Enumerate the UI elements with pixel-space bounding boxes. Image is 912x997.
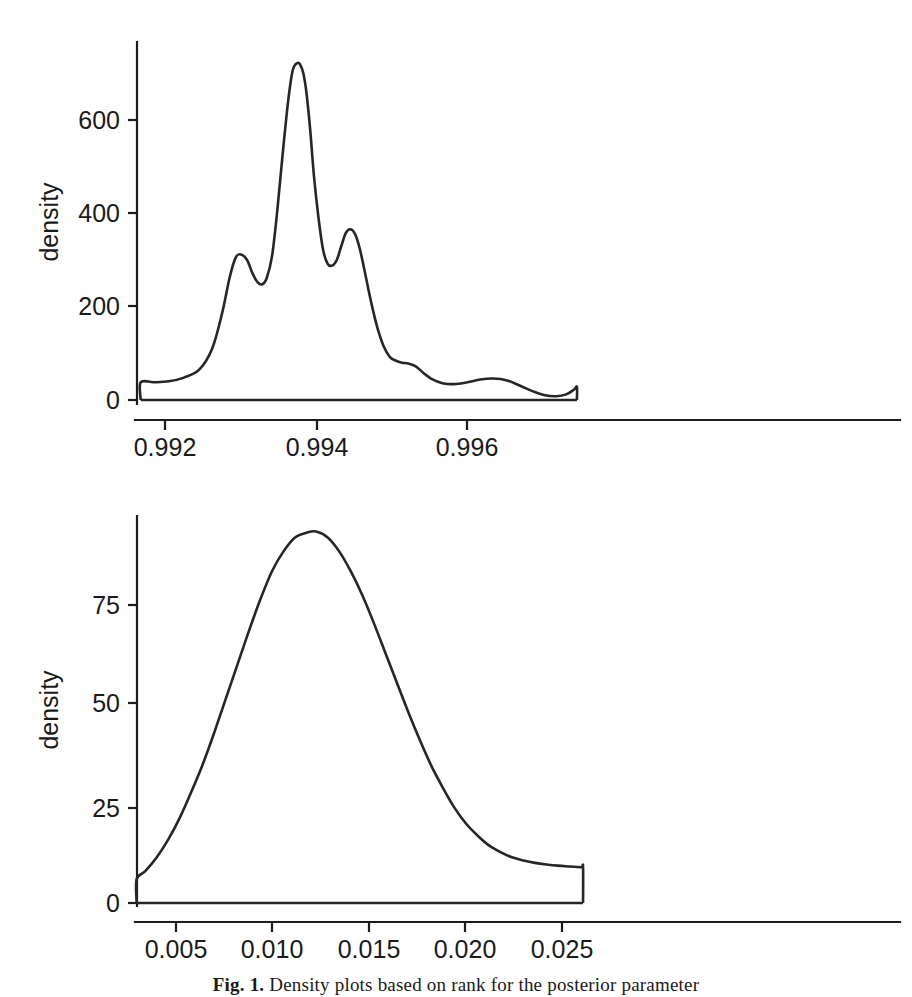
top-y-ticklabel-400: 400 (78, 199, 120, 227)
density-plot-bottom: 0 25 50 75 0.005 0.010 0.015 0.020 0.025… (0, 470, 912, 970)
density-plot-top: 0 200 400 600 0.992 0.994 0.996 density (0, 0, 912, 470)
top-x-ticks (165, 420, 467, 430)
figure-caption-text: Density plots based on rank for the post… (269, 974, 699, 995)
bottom-y-ticklabel-25: 25 (92, 794, 120, 822)
bottom-density-curve (136, 531, 583, 903)
bottom-x-ticks (176, 922, 562, 932)
top-y-axis-title: density (35, 182, 63, 262)
top-density-curve (140, 63, 577, 400)
bottom-x-ticklabel-0010: 0.010 (241, 935, 304, 963)
figure-container: 0 200 400 600 0.992 0.994 0.996 density (0, 0, 912, 997)
top-x-ticklabel-0996: 0.996 (436, 433, 499, 461)
top-x-ticklabel-0994: 0.994 (286, 433, 349, 461)
top-plot-svg: 0 200 400 600 0.992 0.994 0.996 density (0, 0, 912, 470)
top-y-ticks (128, 120, 137, 400)
bottom-x-ticklabel-0005: 0.005 (145, 935, 208, 963)
bottom-x-ticklabel-0025: 0.025 (531, 935, 594, 963)
bottom-y-axis-title: density (35, 670, 63, 750)
figure-caption: Fig. 1. Density plots based on rank for … (0, 974, 912, 997)
top-y-ticklabel-0: 0 (106, 386, 120, 414)
bottom-y-ticklabel-75: 75 (92, 591, 120, 619)
bottom-x-ticklabel-0015: 0.015 (338, 935, 401, 963)
top-x-ticklabel-0992: 0.992 (134, 433, 197, 461)
figure-caption-label: Fig. 1. (213, 974, 265, 995)
bottom-y-ticklabel-50: 50 (92, 689, 120, 717)
top-y-ticklabel-200: 200 (78, 292, 120, 320)
bottom-x-ticklabel-0020: 0.020 (434, 935, 497, 963)
top-y-ticklabel-600: 600 (78, 106, 120, 134)
bottom-plot-svg: 0 25 50 75 0.005 0.010 0.015 0.020 0.025… (0, 470, 912, 970)
bottom-y-ticklabel-0: 0 (106, 889, 120, 917)
bottom-y-ticks (128, 605, 137, 903)
